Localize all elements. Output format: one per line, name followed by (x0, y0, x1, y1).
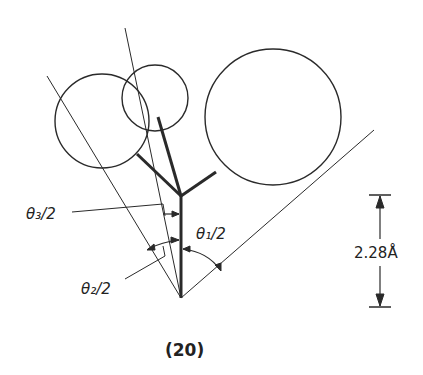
atom-circle-left (55, 74, 149, 168)
theta2-arrowhead-left (147, 244, 155, 250)
theta2-arrowhead-right (171, 237, 179, 243)
atom-circle-right (205, 49, 341, 185)
dimension-arrow-up-icon (376, 196, 384, 208)
bond-right (181, 172, 216, 196)
label-theta3: θ₃/2 (26, 205, 56, 223)
label-theta1: θ₁/2 (196, 225, 226, 243)
dimension-arrow-down-icon (376, 294, 384, 306)
figure-caption: (20) (165, 340, 204, 360)
molecular-geometry-diagram: θ₃/2 θ₂/2 θ₁/2 2.28Å (20) (0, 0, 423, 375)
theta1-arrowhead-left (183, 246, 190, 252)
reference-line-left (47, 76, 181, 298)
label-theta2: θ₂/2 (81, 280, 111, 298)
theta3-arrowhead (172, 211, 179, 217)
reference-line-right (181, 130, 374, 298)
atom-circle-middle (122, 65, 188, 131)
label-distance: 2.28Å (354, 243, 398, 262)
theta3-leader (72, 204, 165, 216)
theta1-arc (183, 249, 220, 270)
